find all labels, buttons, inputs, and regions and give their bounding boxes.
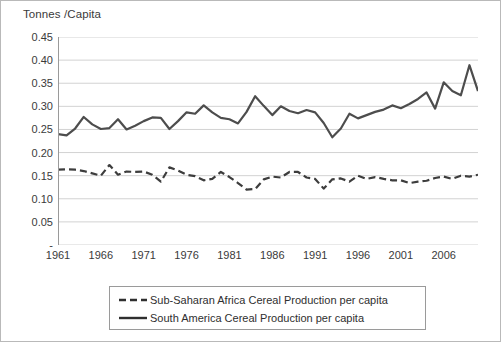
x-tick-label: 2006	[431, 249, 455, 261]
gridlines	[58, 37, 478, 245]
plot-area	[58, 37, 478, 245]
x-tick-label: 1996	[346, 249, 370, 261]
legend-label: South America Cereal Production per capi…	[150, 312, 364, 324]
y-tick-label: 0.20	[7, 147, 53, 159]
y-tick-label: 0.35	[7, 77, 53, 89]
x-axis-tick-labels: 1961196619711976198119861991199620012006	[58, 249, 478, 267]
x-tick-label: 1961	[46, 249, 70, 261]
legend-item-sub-saharan-africa: Sub-Saharan Africa Cereal Production per…	[110, 291, 425, 309]
plot-svg	[58, 37, 478, 245]
x-tick-label: 1971	[131, 249, 155, 261]
legend-label: Sub-Saharan Africa Cereal Production per…	[150, 294, 388, 306]
y-tick-label: 0.40	[7, 54, 53, 66]
y-tick-label: 0.15	[7, 170, 53, 182]
x-tick-label: 1966	[89, 249, 113, 261]
dashed-line-icon	[118, 294, 148, 306]
legend-item-south-america: South America Cereal Production per capi…	[110, 309, 425, 327]
x-tick-label: 1981	[217, 249, 241, 261]
y-axis-tick-labels: 0.450.400.350.300.250.200.150.100.05-	[5, 37, 53, 245]
chart-legend: Sub-Saharan Africa Cereal Production per…	[109, 286, 426, 330]
y-tick-label: 0.30	[7, 100, 53, 112]
x-tick-label: 1976	[174, 249, 198, 261]
chart-title: Tonnes /Capita	[23, 8, 101, 20]
y-tick-label: 0.05	[7, 216, 53, 228]
y-tick-label: 0.25	[7, 123, 53, 135]
series-line	[58, 165, 478, 189]
x-tick-label: 1991	[303, 249, 327, 261]
series-layer	[58, 65, 478, 189]
series-line	[58, 65, 478, 137]
x-tick-label: 1986	[260, 249, 284, 261]
y-tick-label: 0.10	[7, 193, 53, 205]
x-tick-label: 2001	[389, 249, 413, 261]
solid-line-icon	[118, 312, 148, 324]
y-tick-label: 0.45	[7, 31, 53, 43]
chart-figure: Tonnes /Capita 0.450.400.350.300.250.200…	[0, 0, 501, 342]
